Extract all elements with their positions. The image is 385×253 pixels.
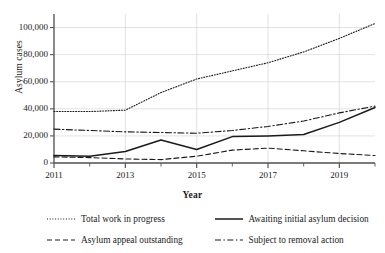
legend-item: Subject to removal action — [214, 235, 382, 245]
x-axis-tick-label: 2019 — [314, 170, 364, 180]
legend-label: Awaiting initial asylum decision — [249, 214, 369, 224]
legend-key-dashdot — [214, 235, 244, 245]
legend-key-solid — [214, 214, 244, 224]
legend-label: Total work in progress — [81, 214, 165, 224]
x-axis-tick-label: 2017 — [243, 170, 293, 180]
legend-item: Total work in progress — [46, 214, 214, 224]
x-axis-tick-label: 2013 — [100, 170, 150, 180]
chart-legend: Total work in progressAwaiting initial a… — [46, 208, 381, 250]
x-axis-title: Year — [0, 190, 385, 200]
asylum-cases-line-chart: Asylum cases 020,00040,00060,00080,00010… — [0, 0, 385, 253]
x-axis-tick-label: 2015 — [172, 170, 222, 180]
legend-key-dotted — [46, 214, 76, 224]
legend-label: Asylum appeal outstanding — [81, 235, 183, 245]
legend-item: Asylum appeal outstanding — [46, 235, 214, 245]
legend-key-dashed — [46, 235, 76, 245]
x-axis-tick-label: 2011 — [29, 170, 79, 180]
legend-item: Awaiting initial asylum decision — [214, 214, 382, 224]
legend-label: Subject to removal action — [249, 235, 344, 245]
